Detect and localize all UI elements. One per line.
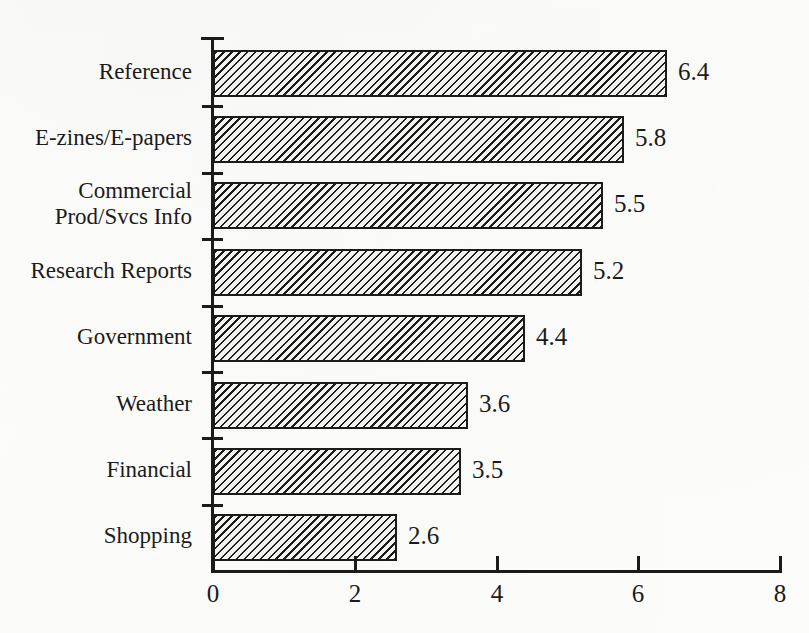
bar-value-label: 4.4: [536, 323, 567, 351]
chart-canvas: 6.45.85.55.24.43.63.52.6 ReferenceE-zine…: [0, 0, 809, 633]
plot-area: 6.45.85.55.24.43.63.52.6 ReferenceE-zine…: [0, 0, 809, 633]
bar-value-label: 5.5: [614, 190, 645, 218]
bar-value-label: 3.5: [472, 456, 503, 484]
category-label: Reference: [99, 59, 192, 85]
x-axis-tick: [354, 556, 357, 573]
x-axis-tick: [212, 556, 215, 573]
bar: [213, 382, 468, 429]
category-label: Research Reports: [30, 258, 192, 284]
bar: [213, 116, 624, 163]
category-label: Shopping: [104, 523, 192, 549]
bar: [213, 50, 667, 97]
x-axis-tick: [637, 556, 640, 573]
category-tick: [202, 437, 223, 440]
bar: [213, 249, 582, 296]
x-axis-tick-label: 8: [750, 580, 809, 608]
bar-value-label: 5.8: [635, 124, 666, 152]
bar: [213, 182, 603, 229]
x-axis-tick-label: 2: [325, 580, 385, 608]
y-axis-top-cap: [201, 37, 224, 40]
x-axis-tick-label: 0: [183, 580, 243, 608]
category-tick: [202, 305, 223, 308]
bar-value-label: 6.4: [678, 58, 709, 86]
bar-value-label: 3.6: [479, 390, 510, 418]
x-axis-tick: [496, 556, 499, 573]
x-axis-tick: [779, 556, 782, 573]
category-tick: [202, 238, 223, 241]
bar-value-label: 2.6: [408, 522, 439, 550]
x-axis-tick-label: 4: [467, 580, 527, 608]
bar: [213, 315, 525, 362]
category-tick: [202, 172, 223, 175]
category-tick: [202, 504, 223, 507]
category-label: Commercial Prod/Svcs Info: [55, 178, 192, 230]
category-tick: [202, 105, 223, 108]
bar: [213, 514, 397, 561]
category-label: Government: [77, 324, 192, 350]
category-label: Financial: [106, 457, 192, 483]
category-label: E-zines/E-papers: [35, 125, 192, 151]
x-axis-tick-label: 6: [608, 580, 668, 608]
bar-value-label: 5.2: [593, 257, 624, 285]
bar: [213, 448, 461, 495]
category-label: Weather: [116, 391, 192, 417]
category-tick: [202, 371, 223, 374]
